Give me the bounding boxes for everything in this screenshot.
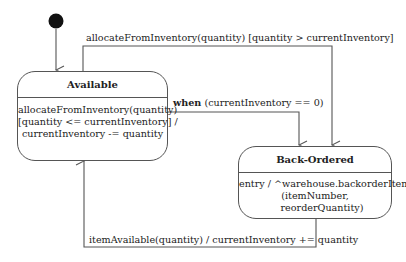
transition-when-label: when (currentInventory == 0) — [173, 97, 323, 108]
transition-overflow-label: allocateFromInventory(quantity) [quantit… — [86, 32, 394, 43]
internal-line: (itemNumber, — [239, 190, 391, 202]
when-keyword: when — [173, 97, 201, 108]
state-available-title: Available — [18, 72, 167, 98]
state-back-ordered-title: Back-Ordered — [239, 147, 391, 173]
internal-line: reorderQuantity) — [239, 202, 391, 214]
state-available-internal: allocateFromInventory(quantity) [quantit… — [18, 98, 167, 140]
internal-line: allocateFromInventory(quantity) — [18, 104, 167, 116]
initial-state-dot — [49, 14, 64, 29]
state-back-ordered-internal: entry / ^warehouse.backorderItem (itemNu… — [239, 173, 391, 214]
state-available: Available allocateFromInventory(quantity… — [17, 71, 168, 161]
transition-when-arrow — [167, 112, 299, 145]
state-back-ordered: Back-Ordered entry / ^warehouse.backorde… — [238, 146, 392, 219]
internal-line: currentInventory -= quantity — [18, 128, 167, 140]
internal-line: [quantity <= currentInventory] / — [18, 116, 167, 128]
when-condition: (currentInventory == 0) — [204, 97, 323, 108]
internal-line: entry / ^warehouse.backorderItem — [239, 178, 391, 190]
transition-item-available-label: itemAvailable(quantity) / currentInvento… — [89, 234, 358, 245]
